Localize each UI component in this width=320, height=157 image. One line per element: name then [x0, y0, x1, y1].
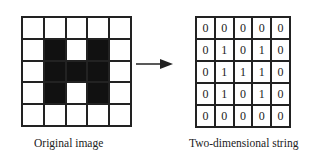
- pixel-cell: [22, 17, 44, 39]
- pixel-cell: [44, 104, 66, 126]
- pixel-cell: [22, 104, 44, 126]
- pixel-cell: [87, 82, 109, 104]
- pixel-cell: [109, 39, 131, 61]
- string-cell: 0: [252, 17, 271, 39]
- pixel-cell: [109, 104, 131, 126]
- pixel-cell: [44, 17, 66, 39]
- pixel-cell: [109, 17, 131, 39]
- pixel-cell: [109, 61, 131, 83]
- string-cell: 0: [271, 83, 290, 105]
- pixel-cell: [22, 61, 44, 83]
- string-cell: 0: [252, 105, 271, 127]
- string-cell: 0: [234, 105, 253, 127]
- pixel-cell: [22, 82, 44, 104]
- pixel-cell: [22, 39, 44, 61]
- two-dimensional-string-caption: Two-dimensional string: [189, 137, 298, 149]
- string-cell: 1: [252, 61, 271, 83]
- string-cell: 1: [215, 39, 234, 61]
- right-arrow-icon: [136, 58, 174, 70]
- original-image-caption: Original image: [34, 137, 103, 149]
- string-cell: 1: [215, 61, 234, 83]
- string-cell: 0: [271, 61, 290, 83]
- string-cell: 0: [196, 61, 215, 83]
- string-cell: 1: [234, 61, 253, 83]
- string-cell: 0: [196, 105, 215, 127]
- string-cell: 0: [234, 39, 253, 61]
- pixel-cell: [109, 82, 131, 104]
- pixel-cell: [87, 104, 109, 126]
- string-cell: 0: [271, 105, 290, 127]
- string-cell: 0: [271, 39, 290, 61]
- string-cell: 0: [196, 39, 215, 61]
- pixel-cell: [66, 61, 88, 83]
- pixel-cell: [87, 17, 109, 39]
- string-cell: 0: [215, 17, 234, 39]
- pixel-cell: [66, 39, 88, 61]
- string-cell: 1: [215, 83, 234, 105]
- string-cell: 1: [252, 39, 271, 61]
- pixel-cell: [66, 104, 88, 126]
- string-cell: 0: [271, 17, 290, 39]
- original-image-grid: [21, 16, 132, 127]
- string-cell: 0: [234, 83, 253, 105]
- string-cell: 0: [215, 105, 234, 127]
- string-cell: 0: [234, 17, 253, 39]
- string-cell: 1: [252, 83, 271, 105]
- string-cell: 0: [196, 83, 215, 105]
- pixel-cell: [66, 17, 88, 39]
- pixel-cell: [87, 61, 109, 83]
- pixel-cell: [87, 39, 109, 61]
- pixel-cell: [44, 61, 66, 83]
- pixel-cell: [66, 82, 88, 104]
- pixel-cell: [44, 39, 66, 61]
- string-cell: 0: [196, 17, 215, 39]
- pixel-cell: [44, 82, 66, 104]
- two-dimensional-string-grid: 0000001010011100101000000: [195, 16, 291, 128]
